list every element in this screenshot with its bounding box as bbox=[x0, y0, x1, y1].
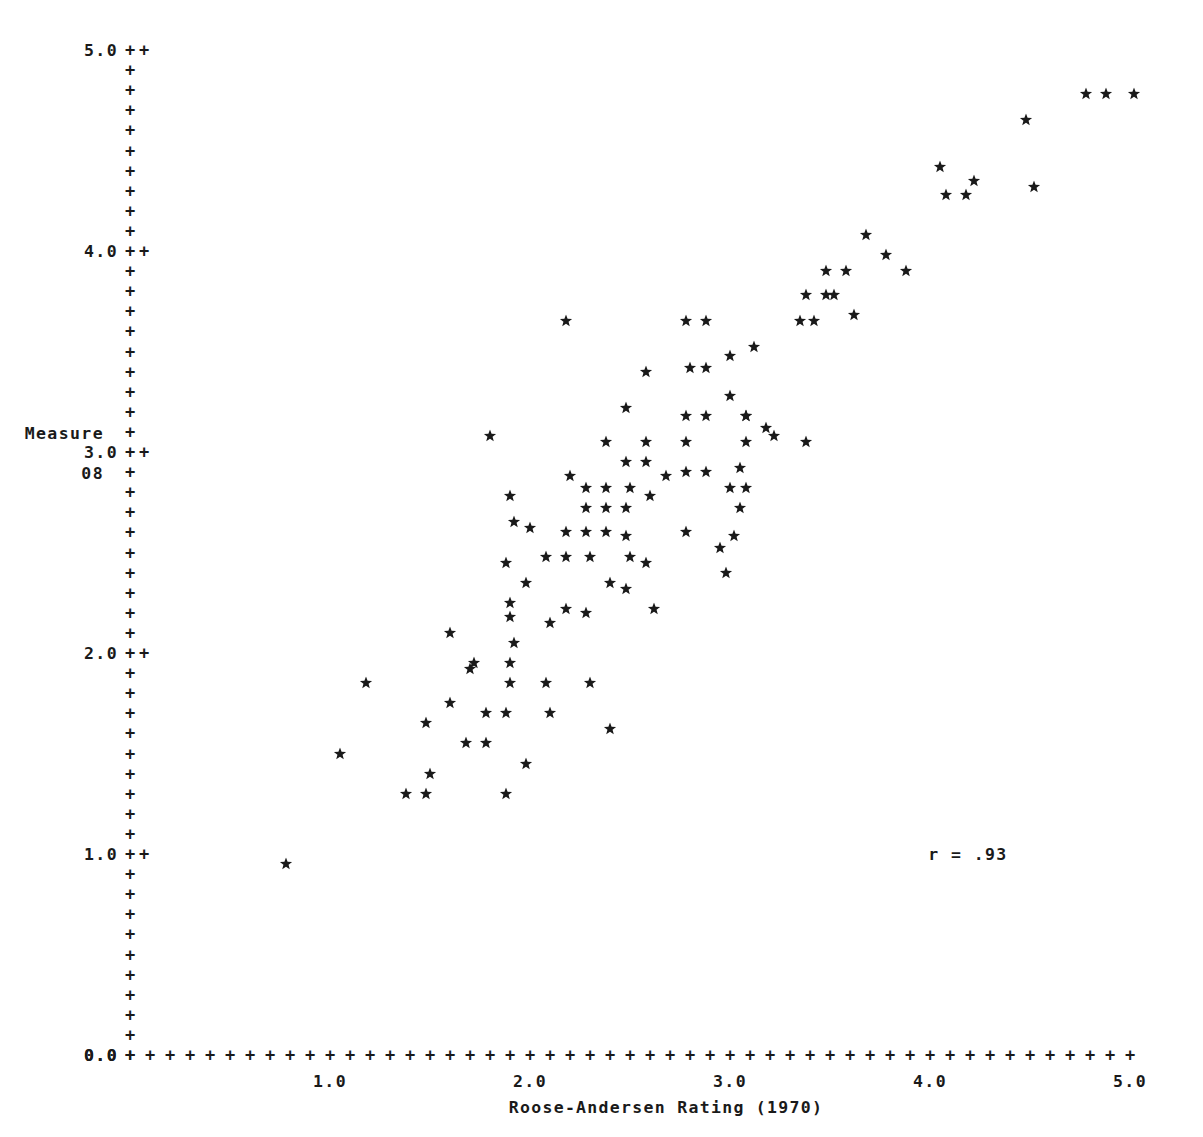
data-point-marker bbox=[580, 502, 593, 515]
data-point-marker bbox=[580, 526, 593, 539]
data-point-marker bbox=[740, 435, 753, 448]
data-point-marker bbox=[444, 697, 457, 710]
y-axis-caption-line2: 08 bbox=[81, 464, 104, 483]
data-point-marker bbox=[544, 616, 557, 629]
y-axis-caption-line1: Measure bbox=[25, 424, 104, 443]
data-point-marker bbox=[480, 707, 493, 720]
x-axis-title: Roose-Andersen Rating (1970) bbox=[509, 1098, 824, 1118]
data-point-marker bbox=[934, 160, 947, 173]
data-point-marker bbox=[600, 502, 613, 515]
data-point-marker bbox=[600, 526, 613, 539]
data-point-marker bbox=[794, 315, 807, 328]
data-point-marker bbox=[728, 530, 741, 543]
data-point-marker bbox=[808, 315, 821, 328]
data-point-marker bbox=[600, 435, 613, 448]
data-point-marker bbox=[640, 365, 653, 378]
data-point-marker bbox=[400, 787, 413, 800]
data-point-marker bbox=[540, 550, 553, 563]
data-point-marker bbox=[504, 677, 517, 690]
data-point-marker bbox=[880, 249, 893, 262]
data-point-marker bbox=[620, 530, 633, 543]
data-point-marker bbox=[584, 677, 597, 690]
data-point-marker bbox=[820, 289, 833, 302]
scatter-plot-figure: ++++++++++++++++++++++++++++++++++++++++… bbox=[0, 0, 1203, 1137]
data-point-marker bbox=[800, 289, 813, 302]
data-point-marker bbox=[760, 421, 773, 434]
data-point-marker bbox=[504, 596, 517, 609]
data-point-layer bbox=[0, 0, 1203, 1137]
data-point-marker bbox=[520, 576, 533, 589]
data-point-marker bbox=[480, 737, 493, 750]
data-point-marker bbox=[420, 717, 433, 730]
data-point-marker bbox=[420, 787, 433, 800]
data-point-marker bbox=[360, 677, 373, 690]
data-point-marker bbox=[714, 542, 727, 555]
data-point-marker bbox=[1100, 88, 1113, 101]
data-point-marker bbox=[624, 482, 637, 495]
data-point-marker bbox=[700, 315, 713, 328]
data-point-marker bbox=[1080, 88, 1093, 101]
data-point-marker bbox=[520, 757, 533, 770]
data-point-marker bbox=[424, 767, 437, 780]
data-point-marker bbox=[680, 466, 693, 479]
data-point-marker bbox=[334, 747, 347, 760]
data-point-marker bbox=[560, 602, 573, 615]
data-point-marker bbox=[660, 470, 673, 483]
data-point-marker bbox=[848, 309, 861, 322]
data-point-marker bbox=[484, 429, 497, 442]
data-point-marker bbox=[564, 470, 577, 483]
correlation-annotation: r = .93 bbox=[928, 846, 1007, 864]
data-point-marker bbox=[640, 456, 653, 469]
data-point-marker bbox=[1128, 88, 1141, 101]
data-point-marker bbox=[748, 341, 761, 354]
data-point-marker bbox=[900, 265, 913, 278]
data-point-marker bbox=[644, 490, 657, 503]
data-point-marker bbox=[968, 174, 981, 187]
data-point-marker bbox=[680, 315, 693, 328]
data-point-marker bbox=[604, 723, 617, 736]
data-point-marker bbox=[820, 265, 833, 278]
data-point-marker bbox=[724, 389, 737, 402]
y-axis-caption-secondary: 08 bbox=[81, 465, 104, 482]
data-point-marker bbox=[468, 657, 481, 670]
data-point-marker bbox=[724, 349, 737, 362]
data-point-marker bbox=[684, 361, 697, 374]
data-point-marker bbox=[680, 526, 693, 539]
data-point-marker bbox=[600, 482, 613, 495]
data-point-marker bbox=[1020, 114, 1033, 127]
data-point-marker bbox=[740, 409, 753, 422]
data-point-marker bbox=[860, 228, 873, 241]
data-point-marker bbox=[640, 435, 653, 448]
data-point-marker bbox=[680, 409, 693, 422]
data-point-marker bbox=[620, 456, 633, 469]
data-point-marker bbox=[584, 550, 597, 563]
data-point-marker bbox=[648, 602, 661, 615]
y-axis-caption: Measure bbox=[25, 425, 104, 442]
data-point-marker bbox=[460, 737, 473, 750]
data-point-marker bbox=[620, 401, 633, 414]
data-point-marker bbox=[560, 315, 573, 328]
data-point-marker bbox=[504, 490, 517, 503]
data-point-marker bbox=[960, 188, 973, 201]
data-point-marker bbox=[800, 435, 813, 448]
data-point-marker bbox=[560, 550, 573, 563]
data-point-marker bbox=[680, 435, 693, 448]
data-point-marker bbox=[700, 409, 713, 422]
data-point-marker bbox=[500, 787, 513, 800]
data-point-marker bbox=[544, 707, 557, 720]
data-point-marker bbox=[740, 409, 753, 422]
data-point-marker bbox=[464, 663, 477, 676]
data-point-marker bbox=[620, 502, 633, 515]
data-point-marker bbox=[580, 606, 593, 619]
data-point-marker bbox=[940, 188, 953, 201]
data-point-marker bbox=[640, 556, 653, 569]
data-point-marker bbox=[504, 610, 517, 623]
data-point-marker bbox=[560, 526, 573, 539]
data-point-marker bbox=[504, 657, 517, 670]
data-point-marker bbox=[508, 516, 521, 529]
data-point-marker bbox=[508, 636, 521, 649]
data-point-marker bbox=[700, 361, 713, 374]
data-point-marker bbox=[828, 289, 841, 302]
data-point-marker bbox=[1028, 180, 1041, 193]
data-point-marker bbox=[720, 566, 733, 579]
